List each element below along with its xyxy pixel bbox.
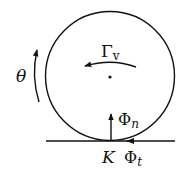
center-point <box>108 75 111 78</box>
theta-label: θ <box>16 66 26 86</box>
phi-t-label: Φt <box>124 148 142 169</box>
gamma-label: Γv <box>101 41 120 63</box>
theta-arrow-icon <box>34 50 39 102</box>
wheel-diagram: Γv θ Φn K Φt <box>0 0 188 176</box>
gamma-arrow-icon <box>85 62 136 67</box>
phi-n-label: Φn <box>118 110 139 131</box>
contact-point-label: K <box>101 147 116 167</box>
